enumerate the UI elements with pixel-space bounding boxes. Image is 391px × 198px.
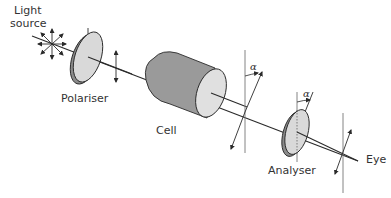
angle-label-1: α: [250, 61, 257, 72]
rotated-plane-arrow: [245, 72, 262, 112]
cell-cylinder: [145, 52, 232, 121]
angle-arc-2: [297, 100, 310, 102]
polariser-disc: [65, 28, 109, 87]
cell-label: Cell: [156, 124, 177, 137]
light-source-label-line2: source: [10, 17, 47, 30]
analyser-label: Analyser: [268, 164, 316, 177]
angle-label-2: α: [303, 88, 310, 99]
angle-arc-1: [245, 73, 258, 76]
emerging-light-arrow: [343, 130, 351, 152]
light-source-label-line1: Light: [14, 4, 42, 17]
polarimeter-diagram: α α Light source Polariser Cell Analyser…: [0, 0, 391, 198]
light-source-icon: [38, 29, 66, 59]
eye-label: Eye: [366, 153, 386, 166]
polariser-label: Polariser: [61, 92, 109, 105]
analyser-disc: [277, 107, 313, 159]
